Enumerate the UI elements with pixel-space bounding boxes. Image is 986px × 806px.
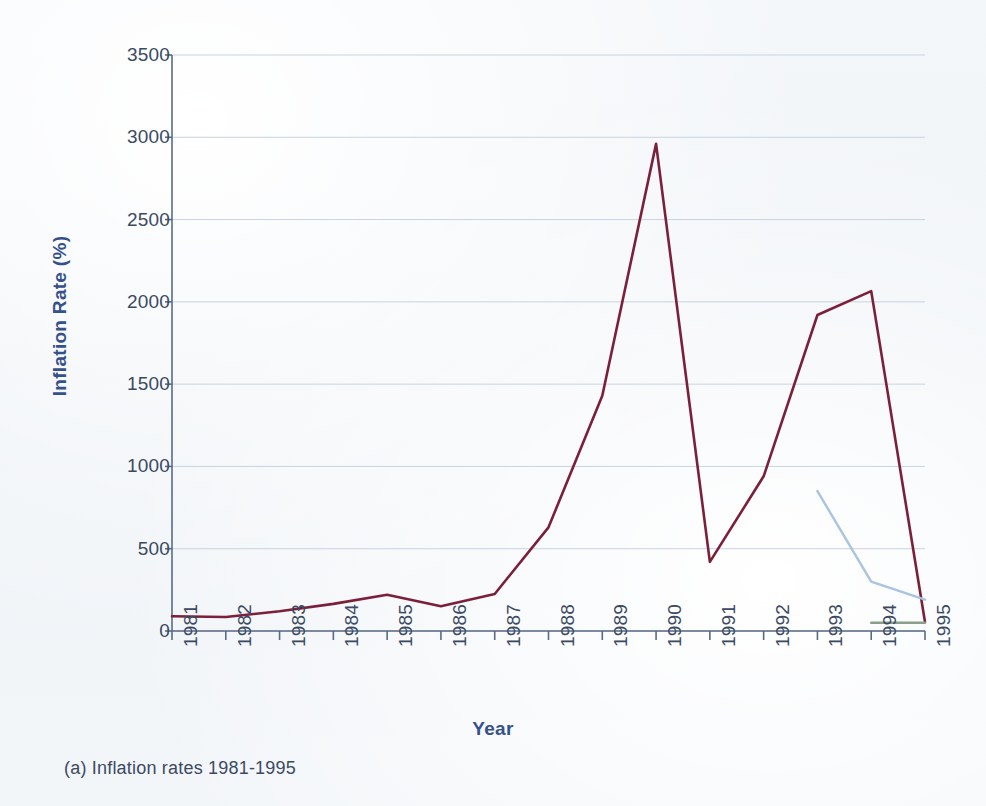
x-tick-label: 1986 xyxy=(449,604,471,647)
x-tick-label: 1988 xyxy=(557,604,579,647)
y-axis-title: Inflation Rate (%) xyxy=(49,216,71,416)
x-tick-label: 1992 xyxy=(772,604,794,647)
x-tick-label: 1991 xyxy=(718,604,740,647)
x-tick-label: 1983 xyxy=(288,604,310,647)
x-tick-label: 1985 xyxy=(395,604,417,647)
x-tick-label: 1987 xyxy=(503,604,525,647)
x-tick-label: 1982 xyxy=(234,604,256,647)
inflation-rate-chart-figure: 0500100015002000250030003500 19811982198… xyxy=(0,0,986,806)
x-tick-label: 1989 xyxy=(610,604,632,647)
x-tick-label: 1995 xyxy=(933,604,955,647)
x-tick-label: 1984 xyxy=(341,604,363,647)
x-tick-label: 1990 xyxy=(664,604,686,647)
x-tick-label: 1993 xyxy=(825,604,847,647)
x-axis-title: Year xyxy=(0,718,986,740)
figure-caption: (a) Inflation rates 1981-1995 xyxy=(64,758,296,779)
x-tick-label: 1981 xyxy=(180,604,202,647)
x-axis-tick-labels: 1981198219831984198519861987198819891990… xyxy=(0,0,986,806)
x-tick-label: 1994 xyxy=(879,604,901,647)
